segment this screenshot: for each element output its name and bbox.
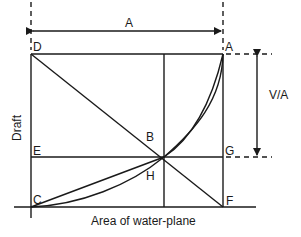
point-label-C: C [33, 193, 42, 207]
point-label-D: D [33, 40, 42, 54]
width-dimension-label: A [125, 16, 133, 30]
point-label-A: A [225, 40, 233, 54]
x-axis-label: Area of water-plane [91, 214, 196, 228]
height-dimension-label: V/A [269, 88, 288, 102]
diagonal-DF [31, 54, 223, 207]
waterplane-diagram: D A B E G H C F A V/A Area of water-plan… [0, 0, 301, 237]
point-label-B: B [146, 130, 154, 144]
point-label-G: G [225, 144, 234, 158]
point-label-H: H [146, 169, 155, 183]
y-axis-label: Draft [10, 114, 24, 141]
point-label-E: E [33, 144, 41, 158]
point-label-F: F [226, 194, 233, 208]
